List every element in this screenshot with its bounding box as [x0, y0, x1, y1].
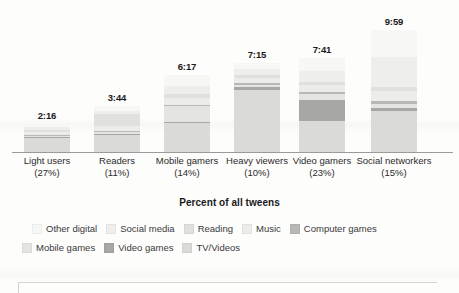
- bar-segment: [94, 135, 140, 152]
- bar-stack: [234, 63, 280, 152]
- bar-segment: [299, 121, 345, 152]
- legend-label: Social media: [120, 223, 174, 234]
- bar-segment: [371, 57, 417, 87]
- legend-row-2: Mobile gamesVideo gamesTV/Videos: [22, 238, 442, 257]
- page-bottom-rule-cap: [18, 282, 19, 293]
- category-label-name: Mobile gamers: [156, 155, 218, 166]
- bar-segment: [234, 90, 280, 152]
- category-label: Mobile gamers(14%): [147, 155, 227, 178]
- legend-item[interactable]: TV/Videos: [182, 242, 240, 253]
- bar-stack: [299, 58, 345, 152]
- legend-item[interactable]: Computer games: [290, 223, 377, 234]
- bar-total-label: 2:16: [24, 110, 70, 121]
- bar-segment: [299, 85, 345, 93]
- legend-swatch-icon: [22, 243, 32, 253]
- bar-segment: [371, 91, 417, 101]
- category-label-percent: (15%): [354, 167, 434, 179]
- bar-segment: [299, 58, 345, 71]
- x-axis-line: [12, 152, 453, 153]
- bar-group[interactable]: 3:44: [94, 106, 140, 152]
- legend-item[interactable]: Other digital: [32, 223, 97, 234]
- bar-total-label: 6:17: [164, 61, 210, 72]
- category-label: Light users(27%): [7, 155, 87, 178]
- page-bottom-rule: [18, 282, 437, 283]
- legend-label: Mobile games: [36, 242, 95, 253]
- bar-segment: [164, 98, 210, 105]
- legend-label: Computer games: [304, 223, 377, 234]
- bar-segment: [24, 138, 70, 152]
- bar-stack: [94, 106, 140, 152]
- category-label: Readers(11%): [77, 155, 157, 178]
- bar-segment: [299, 71, 345, 81]
- bar-segment: [299, 100, 345, 121]
- bar-group[interactable]: 2:16: [24, 124, 70, 152]
- category-label-percent: (27%): [7, 167, 87, 179]
- scan-artifact: [0, 268, 459, 282]
- legend-label: Other digital: [46, 223, 97, 234]
- bar-segment: [371, 111, 417, 152]
- bar-stack: [24, 124, 70, 152]
- legend-item[interactable]: Video games: [104, 242, 173, 253]
- chart-page: 2:163:446:177:157:419:59 Light users(27%…: [0, 0, 459, 293]
- legend-swatch-icon: [104, 243, 114, 253]
- category-label-percent: (23%): [282, 167, 362, 179]
- legend-label: Reading: [198, 223, 233, 234]
- stacked-bar-plot-area: 2:163:446:177:157:419:59: [0, 0, 459, 156]
- legend-swatch-icon: [182, 243, 192, 253]
- legend-swatch-icon: [32, 224, 42, 234]
- category-label-name: Readers: [99, 155, 135, 166]
- bar-segment: [164, 123, 210, 152]
- category-label: Social networkers(15%): [354, 155, 434, 178]
- chart-legend: Other digitalSocial mediaReadingMusicCom…: [22, 219, 442, 257]
- bar-total-label: 7:15: [234, 49, 280, 60]
- category-axis-labels: Light users(27%)Readers(11%)Mobile gamer…: [0, 155, 459, 197]
- legend-label: Music: [256, 223, 281, 234]
- category-label-name: Light users: [24, 155, 70, 166]
- legend-swatch-icon: [290, 224, 300, 234]
- legend-item[interactable]: Music: [242, 223, 281, 234]
- legend-row-1: Other digitalSocial mediaReadingMusicCom…: [22, 219, 442, 238]
- category-label-percent: (14%): [147, 167, 227, 179]
- legend-item[interactable]: Mobile games: [22, 242, 95, 253]
- bar-group[interactable]: 7:41: [299, 58, 345, 152]
- legend-swatch-icon: [184, 224, 194, 234]
- category-label: Video gamers(23%): [282, 155, 362, 178]
- bar-segment: [164, 106, 210, 122]
- category-label-name: Heavy viewers: [226, 155, 288, 166]
- bar-group[interactable]: 6:17: [164, 75, 210, 152]
- bar-total-label: 7:41: [299, 44, 345, 55]
- bar-total-label: 9:59: [371, 16, 417, 27]
- bar-group[interactable]: 7:15: [234, 63, 280, 152]
- bar-segment: [164, 75, 210, 86]
- bar-stack: [371, 30, 417, 152]
- category-label-percent: (11%): [77, 167, 157, 179]
- legend-label: TV/Videos: [196, 242, 240, 253]
- legend-item[interactable]: Reading: [184, 223, 233, 234]
- legend-swatch-icon: [106, 224, 116, 234]
- bar-group[interactable]: 9:59: [371, 30, 417, 152]
- x-axis-title: Percent of all tweens: [0, 197, 459, 208]
- bar-segment: [164, 86, 210, 95]
- category-label-name: Social networkers: [357, 155, 432, 166]
- legend-swatch-icon: [242, 224, 252, 234]
- legend-item[interactable]: Social media: [106, 223, 174, 234]
- bar-total-label: 3:44: [94, 92, 140, 103]
- bar-segment: [94, 114, 140, 126]
- bar-segment: [371, 30, 417, 57]
- legend-label: Video games: [118, 242, 173, 253]
- category-label-name: Video gamers: [293, 155, 351, 166]
- bar-stack: [164, 75, 210, 152]
